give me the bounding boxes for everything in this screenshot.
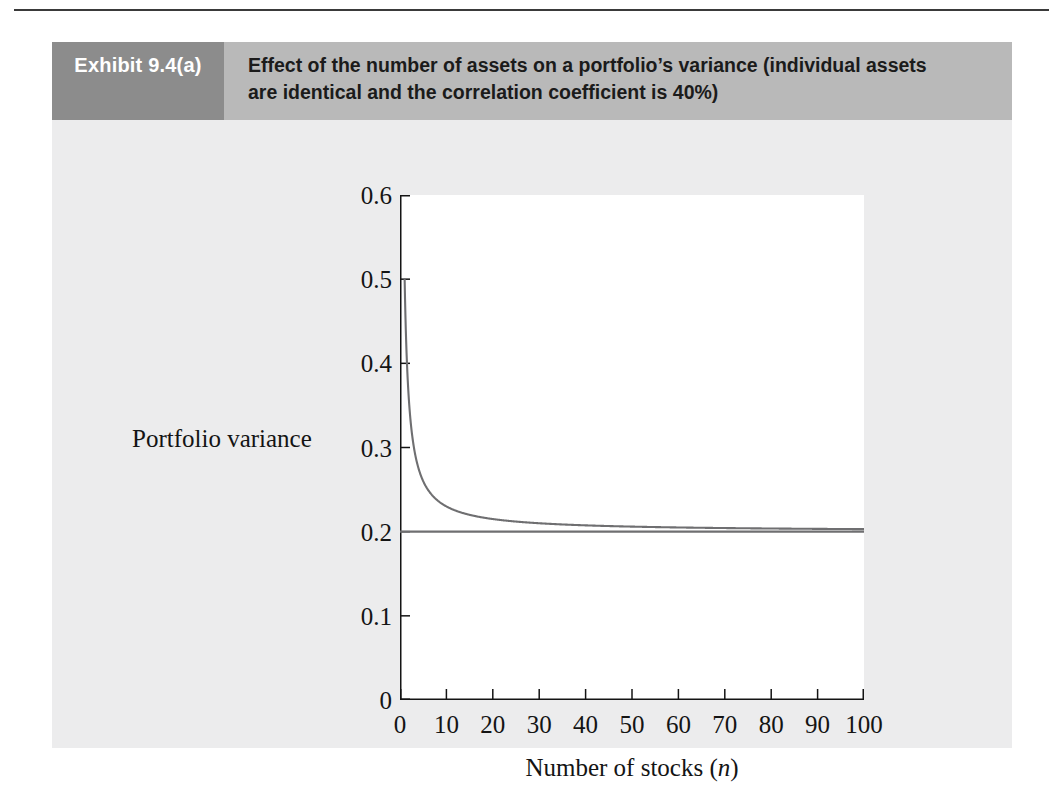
- page-top-rule: [14, 9, 1049, 11]
- y-tick-label: 0.6: [334, 183, 392, 208]
- x-tick-label: 100: [845, 712, 883, 737]
- exhibit-caption: Effect of the number of assets on a port…: [224, 42, 1012, 106]
- x-axis-title-paren-open: (: [703, 754, 718, 781]
- chart-svg: [400, 195, 864, 700]
- exhibit-panel: Exhibit 9.4(a) Effect of the number of a…: [52, 42, 1012, 748]
- y-axis-tick-labels: 00.10.20.30.40.50.6: [334, 195, 392, 700]
- x-tick-label: 70: [712, 712, 737, 737]
- x-axis-title-paren-close: ): [730, 754, 738, 781]
- exhibit-header: Exhibit 9.4(a) Effect of the number of a…: [52, 42, 1012, 120]
- y-tick-label: 0.1: [334, 603, 392, 628]
- chart-body: Portfolio variance 00.10.20.30.40.50.6 0…: [52, 120, 1012, 748]
- x-tick-label: 80: [759, 712, 784, 737]
- x-tick-label: 0: [394, 712, 407, 737]
- x-tick-label: 30: [527, 712, 552, 737]
- exhibit-number-tag: Exhibit 9.4(a): [52, 42, 224, 120]
- y-tick-label: 0.5: [334, 267, 392, 292]
- x-axis-tick-labels: 0102030405060708090100: [400, 712, 864, 742]
- exhibit-caption-line-1: Effect of the number of assets on a port…: [248, 52, 992, 79]
- x-axis-title-symbol: n: [718, 754, 731, 781]
- plot-area: [400, 195, 864, 700]
- exhibit-caption-line-2: are identical and the correlation coeffi…: [248, 79, 992, 106]
- data-series-group: [400, 279, 864, 532]
- x-axis-title-text: Number of stocks: [525, 754, 703, 781]
- x-tick-label: 40: [573, 712, 598, 737]
- x-tick-label: 10: [434, 712, 459, 737]
- x-tick-label: 20: [480, 712, 505, 737]
- axis-lines: [401, 195, 864, 699]
- series-line: [405, 279, 864, 529]
- x-tick-label: 50: [620, 712, 645, 737]
- y-tick-label: 0: [334, 688, 392, 713]
- x-axis-title: Number of stocks (n): [400, 754, 864, 782]
- axis-tick-marks: [401, 196, 864, 700]
- y-tick-label: 0.2: [334, 519, 392, 544]
- y-tick-label: 0.4: [334, 351, 392, 376]
- x-tick-label: 90: [805, 712, 830, 737]
- y-axis-title: Portfolio variance: [132, 425, 312, 453]
- y-tick-label: 0.3: [334, 435, 392, 460]
- x-tick-label: 60: [666, 712, 691, 737]
